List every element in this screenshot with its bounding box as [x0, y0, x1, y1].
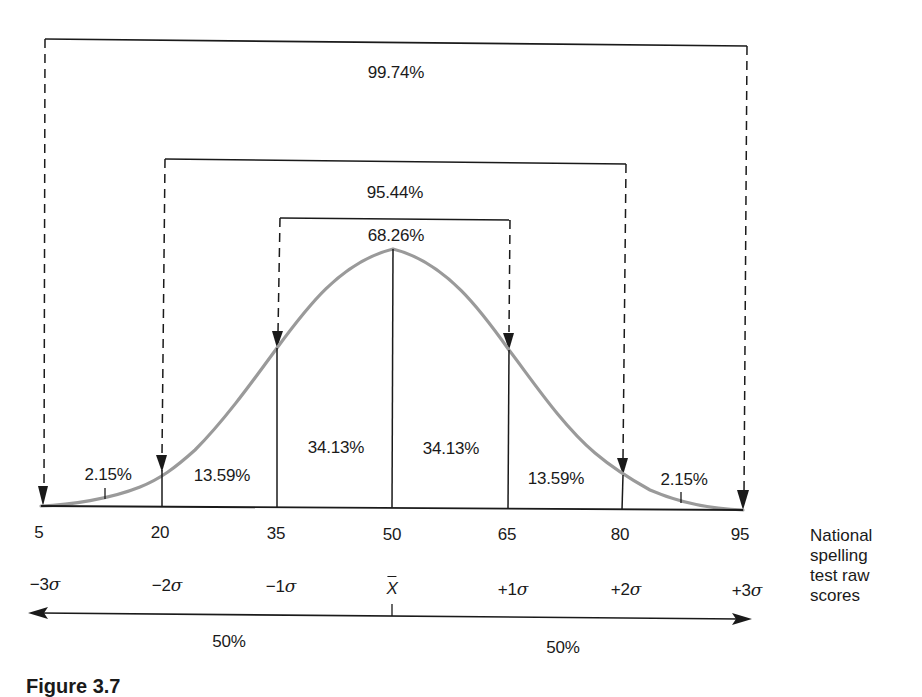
sigma-label-minus2: −2σ [152, 577, 182, 594]
arrowhead-icon [156, 455, 167, 472]
bracket-label-outer: 99.74% [368, 64, 424, 81]
bracket-label-inner: 68.26% [368, 227, 424, 244]
arrowhead-icon [737, 490, 749, 510]
region-label: 34.13% [308, 439, 364, 456]
region-label: 2.15% [84, 466, 131, 483]
region-label: 2.15% [660, 471, 707, 488]
score-tick-label: 50 [383, 526, 402, 543]
sigma-symbol: σ [285, 576, 296, 596]
bracket-label-middle: 95.44% [367, 184, 423, 201]
score-tick-label: 20 [151, 524, 170, 541]
score-tick-label: 95 [731, 526, 750, 543]
sigma-symbol: σ [49, 574, 60, 594]
x-axis-title-line2: test raw scores [810, 566, 922, 606]
sigma-label-plus3: +3σ [732, 582, 762, 599]
mean-letter: X [386, 579, 397, 598]
half-label-right: 50% [546, 639, 579, 656]
region-label: 13.59% [194, 467, 250, 484]
sigma-symbol: σ [751, 580, 762, 600]
sigma-sign: +2 [611, 580, 630, 599]
region-label: 34.13% [423, 440, 479, 457]
score-tick-label: 80 [611, 526, 630, 543]
sigma-sign: +1 [498, 580, 517, 599]
sigma-label-plus1: +1σ [498, 581, 528, 598]
figure-caption: Figure 3.7 [26, 676, 120, 696]
half-label-left: 50% [212, 633, 245, 650]
sigma-sign: −1 [266, 577, 285, 596]
score-tick-label: 35 [267, 525, 286, 542]
sigma-sign: −2 [152, 576, 171, 595]
sigma-symbol: σ [171, 575, 182, 595]
half-arrow-axis [28, 604, 752, 625]
score-tick-label: 5 [34, 524, 43, 541]
sigma-label-plus2: +2σ [611, 581, 641, 598]
score-tick-label: 65 [498, 526, 517, 543]
sigma-label-mean: X [386, 580, 397, 597]
region-label: 13.59% [528, 470, 584, 487]
arrowhead-icon [38, 486, 48, 506]
sigma-label-minus1: −1σ [266, 578, 296, 595]
sigma-symbol: σ [517, 579, 528, 599]
sigma-sign: −3 [30, 575, 49, 594]
x-axis-title: National spelling test raw scores [810, 526, 922, 606]
x-axis-title-line1: National spelling [810, 526, 922, 566]
sigma-label-minus3: −3σ [30, 576, 60, 593]
sigma-symbol: σ [630, 579, 641, 599]
sigma-sign: +3 [732, 581, 751, 600]
sigma-dividers [105, 249, 681, 510]
mean-symbol: X [386, 579, 397, 598]
